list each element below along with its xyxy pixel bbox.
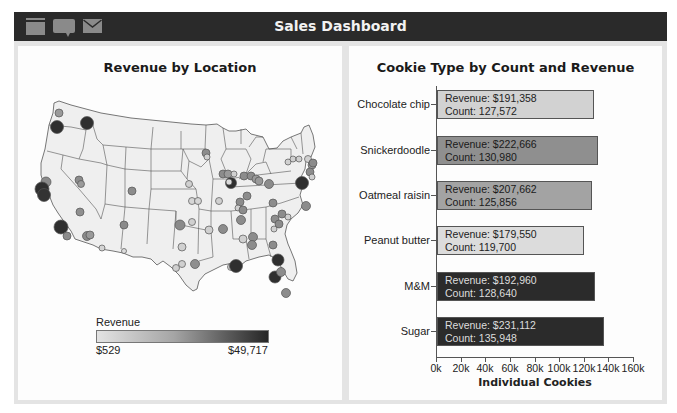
bar-count-label: Count: 130,980 xyxy=(438,151,597,164)
legend-max-label: $49,717 xyxy=(228,344,268,356)
category-label: M&M xyxy=(404,280,430,292)
bar-revenue-label: Revenue: $207,662 xyxy=(438,183,591,196)
x-axis-title: Individual Cookies xyxy=(436,376,634,389)
x-tick-label: 20k xyxy=(453,362,470,374)
bar-count-label: Count: 119,700 xyxy=(438,241,583,254)
x-tick-label: 120k xyxy=(573,362,596,374)
x-tick-label: 160k xyxy=(622,362,645,374)
legend-min-label: $529 xyxy=(96,344,120,356)
x-tick-label: 60k xyxy=(502,362,519,374)
category-tick xyxy=(431,195,436,196)
bar-revenue-label: Revenue: $222,666 xyxy=(438,138,597,151)
cookie-type-panel: Cookie Type by Count and Revenue Individ… xyxy=(349,46,662,400)
x-tick-label: 80k xyxy=(527,362,544,374)
category-tick xyxy=(431,331,436,332)
category-label: Peanut butter xyxy=(364,234,430,246)
cookie-bar-chart: Individual Cookies Chocolate chipRevenue… xyxy=(349,46,662,400)
bar-revenue-label: Revenue: $179,550 xyxy=(438,228,583,241)
category-tick xyxy=(431,240,436,241)
x-tick-label: 140k xyxy=(597,362,620,374)
dashboard-title: Sales Dashboard xyxy=(14,12,667,41)
bar-count-label: Count: 135,948 xyxy=(438,332,603,345)
legend-gradient-bar xyxy=(96,330,269,343)
legend-title: Revenue xyxy=(96,316,271,329)
category-tick xyxy=(431,286,436,287)
bar-snickerdoodle[interactable]: Revenue: $222,666Count: 130,980 xyxy=(437,136,598,165)
us-bubble-map[interactable] xyxy=(26,84,326,309)
bar-oatmeal-raisin[interactable]: Revenue: $207,662Count: 125,856 xyxy=(437,181,592,210)
map-title: Revenue by Location xyxy=(18,60,342,75)
bar-count-label: Count: 128,640 xyxy=(438,287,594,300)
bar-count-label: Count: 127,572 xyxy=(438,105,593,118)
bar-revenue-label: Revenue: $231,112 xyxy=(438,319,603,332)
bar-revenue-label: Revenue: $191,358 xyxy=(438,92,593,105)
x-tick-label: 100k xyxy=(548,362,571,374)
revenue-by-location-panel: Revenue by Location xyxy=(18,46,342,400)
category-label: Sugar xyxy=(401,325,430,337)
category-label: Chocolate chip xyxy=(357,98,430,110)
category-label: Oatmeal raisin xyxy=(359,189,430,201)
revenue-color-legend: Revenue $529 $49,717 xyxy=(96,316,271,343)
bar-count-label: Count: 125,856 xyxy=(438,196,591,209)
category-label: Snickerdoodle xyxy=(360,144,430,156)
category-tick xyxy=(431,150,436,151)
category-tick xyxy=(431,104,436,105)
title-bar: Sales Dashboard xyxy=(14,12,667,41)
bar-m-m[interactable]: Revenue: $192,960Count: 128,640 xyxy=(437,272,595,301)
bar-peanut-butter[interactable]: Revenue: $179,550Count: 119,700 xyxy=(437,226,584,255)
bar-revenue-label: Revenue: $192,960 xyxy=(438,274,594,287)
bar-chocolate-chip[interactable]: Revenue: $191,358Count: 127,572 xyxy=(437,90,594,119)
x-tick-label: 0k xyxy=(430,362,441,374)
bar-sugar[interactable]: Revenue: $231,112Count: 135,948 xyxy=(437,317,604,346)
x-tick-label: 40k xyxy=(477,362,494,374)
